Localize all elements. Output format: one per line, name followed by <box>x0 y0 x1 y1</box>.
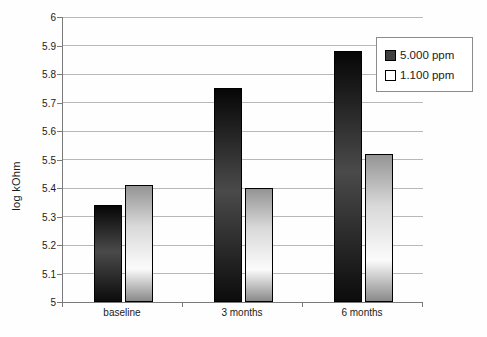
gridline <box>63 17 423 18</box>
legend-swatch-icon <box>385 70 396 81</box>
y-tick-label: 5.1 <box>16 269 56 280</box>
bar-1100ppm-baseline <box>125 185 153 302</box>
x-tick-mark <box>182 303 183 307</box>
y-tick-label: 5.9 <box>16 41 56 52</box>
legend-label: 5.000 ppm <box>400 49 454 61</box>
x-tick-mark <box>62 303 63 307</box>
x-category-label: 6 months <box>302 307 422 318</box>
y-tick-label: 5.8 <box>16 69 56 80</box>
y-tick-label: 5 <box>16 297 56 308</box>
y-tick-label: 5.6 <box>16 126 56 137</box>
y-tick-label: 5.2 <box>16 240 56 251</box>
legend-swatch-icon <box>385 50 396 61</box>
gridline <box>63 131 423 132</box>
gridline <box>63 74 423 75</box>
y-tick-label: 5.7 <box>16 98 56 109</box>
y-tick-label: 6 <box>16 12 56 23</box>
legend: 5.000 ppm1.100 ppm <box>376 37 473 92</box>
plot-area <box>62 17 423 303</box>
bar-chart-figure: log kOhm 65.95.85.75.65.55.45.35.25.15 b… <box>0 0 487 337</box>
legend-item-1100ppm: 1.100 ppm <box>385 65 466 85</box>
y-tick-label: 5.5 <box>16 155 56 166</box>
y-tick-label: 5.3 <box>16 212 56 223</box>
bar-5000ppm-3-months <box>214 88 242 302</box>
bar-1100ppm-6-months <box>365 154 393 302</box>
x-category-label: 3 months <box>182 307 302 318</box>
legend-item-5000ppm: 5.000 ppm <box>385 45 466 65</box>
bar-5000ppm-6-months <box>334 51 362 302</box>
y-tick-label: 5.4 <box>16 183 56 194</box>
gridline <box>63 102 423 103</box>
x-category-label: baseline <box>62 307 182 318</box>
bar-1100ppm-3-months <box>245 188 273 302</box>
legend-label: 1.100 ppm <box>400 69 454 81</box>
x-tick-mark <box>422 303 423 307</box>
x-tick-mark <box>302 303 303 307</box>
bar-5000ppm-baseline <box>94 205 122 302</box>
gridline <box>63 45 423 46</box>
